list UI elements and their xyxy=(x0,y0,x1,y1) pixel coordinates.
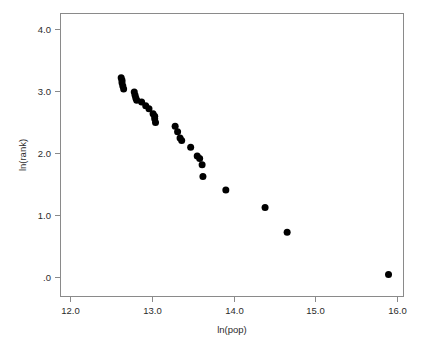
figure-background xyxy=(0,0,424,344)
data-point xyxy=(187,144,194,151)
data-point xyxy=(178,137,185,144)
y-tick-label-4: 4.0 xyxy=(38,24,51,35)
y-tick-label-3: 3.0 xyxy=(38,86,51,97)
x-tick-label-13: 13.0 xyxy=(143,305,162,316)
x-tick-label-12: 12.0 xyxy=(61,305,80,316)
y-tick-label-1: 1.0 xyxy=(38,210,51,221)
x-tick-label-16: 16.0 xyxy=(388,305,407,316)
x-tick-label-14: 14.0 xyxy=(225,305,244,316)
data-point xyxy=(120,86,127,93)
data-point xyxy=(152,119,159,126)
data-point xyxy=(385,271,392,278)
y-tick-label-2: 2.0 xyxy=(38,148,51,159)
scatter-plot-figure: 4.0 3.0 2.0 1.0 .0 12.0 13.0 14.0 15.0 1… xyxy=(0,0,424,344)
data-point xyxy=(222,187,229,194)
data-point xyxy=(174,128,181,135)
data-point xyxy=(199,173,206,180)
data-point xyxy=(284,229,291,236)
y-tick-label-0: .0 xyxy=(43,272,51,283)
x-tick-label-15: 15.0 xyxy=(306,305,325,316)
plot-canvas: 4.0 3.0 2.0 1.0 .0 12.0 13.0 14.0 15.0 1… xyxy=(0,0,424,344)
y-axis-title: ln(rank) xyxy=(17,139,28,171)
data-point xyxy=(196,155,203,162)
data-point xyxy=(199,161,206,168)
x-axis-title: ln(pop) xyxy=(217,324,247,335)
data-point xyxy=(262,204,269,211)
